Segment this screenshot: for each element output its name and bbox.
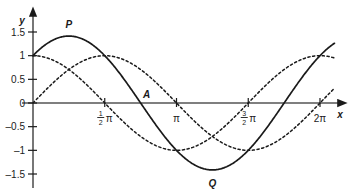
plot-canvas: 1.510.50–0.5–1–1.5 12ππ32π2π PAQ y x: [0, 0, 358, 196]
point-label-a: A: [142, 89, 150, 100]
svg-text:π: π: [249, 113, 256, 124]
svg-text:1: 1: [99, 110, 103, 117]
y-tick-label: 0: [19, 98, 25, 109]
svg-text:2: 2: [99, 119, 103, 126]
x-tick-label: 12π: [97, 110, 113, 126]
x-tick-label: 32π: [241, 110, 257, 126]
y-tick-label: 1.5: [11, 27, 25, 38]
y-tick-label: –1: [14, 145, 26, 156]
y-tick-label: 1: [19, 50, 25, 61]
svg-text:π: π: [106, 113, 113, 124]
svg-text:2π: 2π: [314, 113, 327, 124]
x-axis-title: x: [336, 109, 343, 120]
y-axis-title: y: [18, 15, 25, 26]
y-tick-label: –1.5: [6, 169, 26, 180]
y-tick-label: 0.5: [11, 74, 25, 85]
svg-text:2: 2: [242, 119, 246, 126]
svg-text:π: π: [173, 113, 180, 124]
x-tick-label: 2π: [314, 113, 327, 124]
x-tick-label: π: [173, 113, 180, 124]
point-label-q: Q: [208, 178, 216, 189]
svg-text:3: 3: [242, 110, 246, 117]
y-tick-label: –0.5: [6, 121, 26, 132]
trigonometric-graph-figure: 1.510.50–0.5–1–1.5 12ππ32π2π PAQ y x: [0, 0, 358, 196]
axis-lines: [22, 16, 338, 188]
point-label-p: P: [66, 19, 73, 30]
